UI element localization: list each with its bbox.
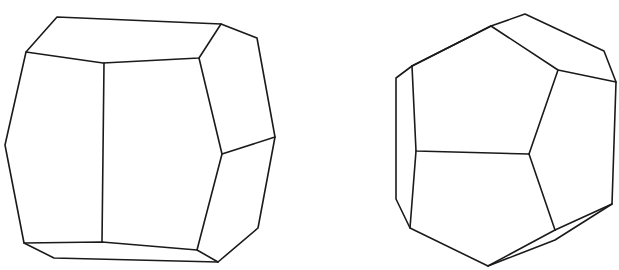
edge	[197, 154, 222, 262]
edge	[26, 24, 221, 63]
edge	[24, 242, 197, 250]
edge	[488, 230, 555, 266]
edge	[529, 154, 555, 230]
edge	[491, 26, 616, 82]
edge	[529, 70, 558, 154]
edge	[102, 63, 104, 242]
edge	[410, 151, 416, 228]
crystal-left	[5, 17, 275, 262]
outline	[5, 17, 275, 262]
edge	[555, 204, 612, 230]
outline	[396, 14, 616, 266]
crystal-drawings	[0, 0, 619, 270]
crystal-right	[396, 14, 616, 266]
edge	[412, 66, 529, 154]
edge	[412, 26, 491, 66]
